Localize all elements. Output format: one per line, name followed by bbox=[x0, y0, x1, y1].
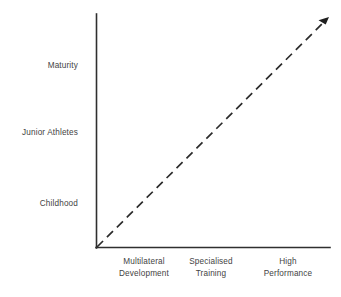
x-tick-line1: Specialised bbox=[189, 257, 233, 266]
chart-canvas bbox=[0, 0, 341, 297]
trend-line-dashed bbox=[97, 22, 324, 247]
x-tick-line1: High bbox=[279, 257, 296, 266]
trend-arrowhead-icon bbox=[319, 17, 330, 24]
x-axis-tick-label-specialised-training: Specialised Training bbox=[189, 256, 233, 279]
x-axis-tick-label-multilateral-development: Multilateral Development bbox=[119, 256, 169, 279]
series-development-pathway bbox=[97, 17, 329, 247]
y-axis-tick-label-junior-athletes: Junior Athletes bbox=[22, 127, 78, 138]
y-axis-tick-label-childhood: Childhood bbox=[40, 198, 78, 209]
x-tick-line1: Multilateral bbox=[123, 257, 164, 266]
y-axis-tick-label-maturity: Maturity bbox=[48, 60, 78, 71]
x-tick-line2: Performance bbox=[264, 268, 313, 280]
x-tick-line2: Development bbox=[119, 268, 169, 280]
x-tick-line2: Training bbox=[189, 268, 233, 280]
chart-container: Maturity Junior Athletes Childhood Multi… bbox=[0, 0, 341, 297]
x-axis-tick-label-high-performance: High Performance bbox=[264, 256, 313, 279]
